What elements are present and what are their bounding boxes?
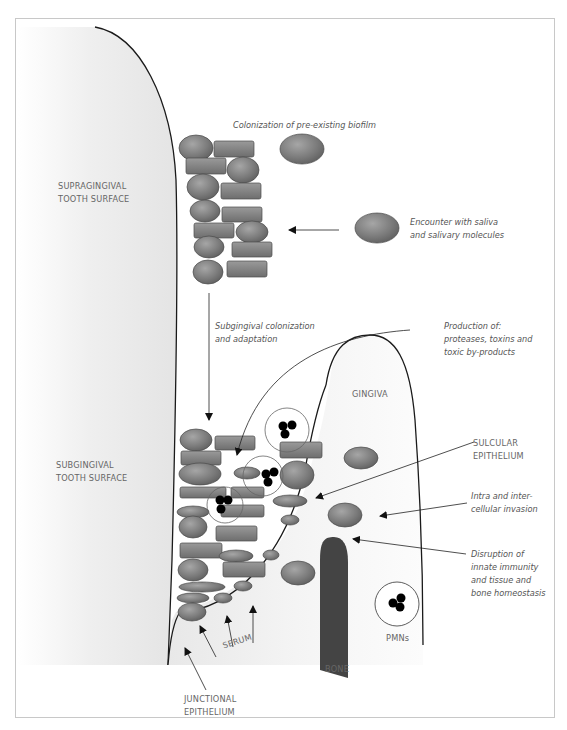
bone-label: BONE — [325, 663, 349, 676]
invasion-label: Intra and inter- cellular invasion — [471, 490, 538, 516]
periodontal-biofilm-diagram — [0, 0, 567, 730]
sulcular-epithelium-label: SULCULAR EPITHELIUM — [473, 437, 524, 463]
gingiva-label: GINGIVA — [352, 388, 388, 401]
subgingival-label: SUBGINGIVAL TOOTH SURFACE — [56, 459, 127, 485]
subgingival-colonization-label: Subgingival colonization and adaptation — [215, 320, 315, 346]
supragingival-biofilm — [179, 135, 272, 284]
disruption-label: Disruption of innate immunity and tissue… — [471, 548, 546, 600]
colonization-preexisting-label: Colonization of pre-existing biofilm — [233, 119, 376, 132]
bone — [320, 537, 348, 678]
tooth — [18, 27, 177, 665]
pmns-label: PMNs — [386, 632, 409, 645]
encounter-saliva-label: Encounter with saliva and salivary molec… — [410, 216, 504, 242]
production-label: Production of: proteases, toxins and tox… — [444, 320, 532, 359]
supragingival-label: SUPRAGINGIVAL TOOTH SURFACE — [58, 180, 129, 206]
junctional-epithelium-label: JUNCTIONAL EPITHELIUM — [184, 693, 236, 719]
